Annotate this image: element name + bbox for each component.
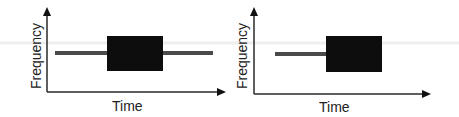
right-x-axis-label: Time	[319, 99, 350, 115]
left-diagram	[43, 7, 226, 96]
x-axis-arrow-icon	[217, 88, 226, 96]
x-axis-arrow-icon	[422, 90, 431, 98]
burst-box	[107, 36, 163, 71]
diagram-canvas	[0, 0, 459, 117]
right-diagram	[250, 7, 431, 98]
left-y-axis-label: Frequency	[28, 18, 44, 94]
burst-box	[326, 36, 382, 72]
y-axis-arrow-icon	[43, 7, 51, 16]
right-y-axis-label: Frequency	[234, 18, 250, 94]
y-axis-arrow-icon	[250, 7, 258, 16]
left-x-axis-label: Time	[112, 98, 143, 114]
